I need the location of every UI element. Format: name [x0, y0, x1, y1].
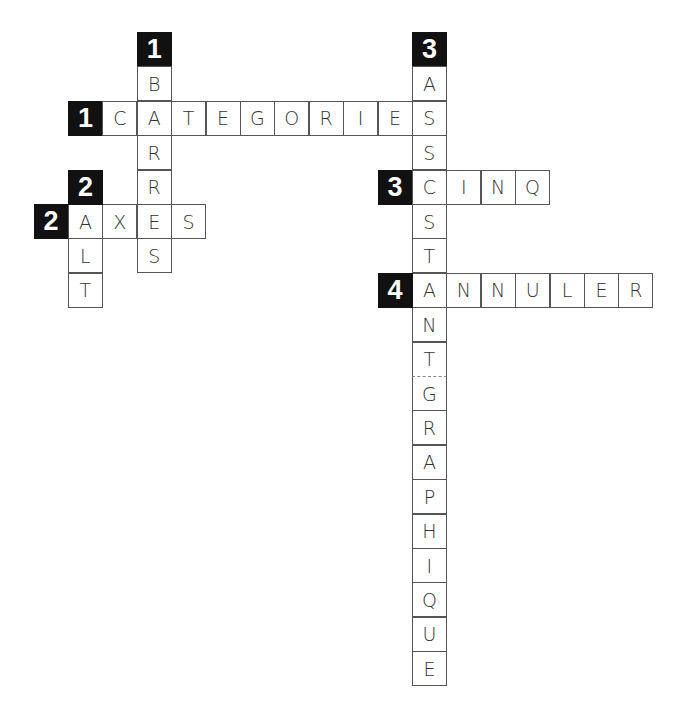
grid-cell[interactable]: R [618, 273, 653, 308]
grid-cell[interactable]: G [240, 101, 275, 136]
grid-cell[interactable]: I [446, 170, 481, 205]
grid-cell[interactable]: N [481, 273, 516, 308]
grid-cell[interactable]: A [68, 204, 103, 239]
grid-cell[interactable]: G [412, 376, 447, 411]
grid-cell[interactable]: U [515, 273, 550, 308]
grid-cell[interactable]: I [343, 101, 378, 136]
grid-cell[interactable]: Q [412, 582, 447, 617]
grid-cell[interactable]: O [274, 101, 309, 136]
grid-cell[interactable]: S [137, 238, 172, 273]
clue-number-3: 3 [378, 170, 413, 205]
grid-cell[interactable]: N [446, 273, 481, 308]
grid-cell[interactable]: A [412, 66, 447, 101]
clue-number-2: 2 [34, 204, 69, 239]
clue-number-4: 4 [378, 273, 413, 308]
grid-cell[interactable]: T [68, 273, 103, 308]
grid-cell[interactable]: L [68, 238, 103, 273]
grid-cell[interactable]: E [584, 273, 619, 308]
grid-cell[interactable]: R [137, 135, 172, 170]
crossword-grid: 1CATEGORIES1BRRES2AXS2LT3CINQ3ASSTANTGRA… [0, 0, 697, 706]
grid-cell[interactable]: H [412, 514, 447, 549]
grid-cell[interactable]: E [206, 101, 241, 136]
clue-number-3: 3 [412, 32, 447, 67]
grid-cell[interactable]: T [412, 342, 447, 377]
grid-cell[interactable]: N [481, 170, 516, 205]
grid-cell[interactable]: B [137, 66, 172, 101]
grid-cell[interactable]: S [412, 135, 447, 170]
grid-cell[interactable]: E [378, 101, 413, 136]
grid-cell[interactable]: Q [515, 170, 550, 205]
grid-cell[interactable]: T [412, 238, 447, 273]
grid-cell[interactable]: A [137, 101, 172, 136]
grid-cell[interactable]: C [102, 101, 137, 136]
grid-cell[interactable]: R [412, 410, 447, 445]
grid-cell[interactable]: U [412, 617, 447, 652]
grid-cell[interactable]: X [102, 204, 137, 239]
grid-cell[interactable]: S [171, 204, 206, 239]
grid-cell[interactable]: P [412, 479, 447, 514]
grid-cell[interactable]: E [412, 651, 447, 686]
grid-cell[interactable]: C [412, 170, 447, 205]
clue-number-2: 2 [68, 170, 103, 205]
grid-cell[interactable]: T [171, 101, 206, 136]
grid-cell[interactable]: A [412, 273, 447, 308]
grid-cell[interactable]: R [309, 101, 344, 136]
grid-cell[interactable]: E [137, 204, 172, 239]
clue-number-1: 1 [68, 101, 103, 136]
grid-cell[interactable]: S [412, 101, 447, 136]
grid-cell[interactable]: N [412, 307, 447, 342]
grid-cell[interactable]: A [412, 445, 447, 480]
grid-cell[interactable]: S [412, 204, 447, 239]
grid-cell[interactable]: L [550, 273, 585, 308]
grid-cell[interactable]: R [137, 170, 172, 205]
grid-cell[interactable]: I [412, 548, 447, 583]
clue-number-1: 1 [137, 32, 172, 67]
